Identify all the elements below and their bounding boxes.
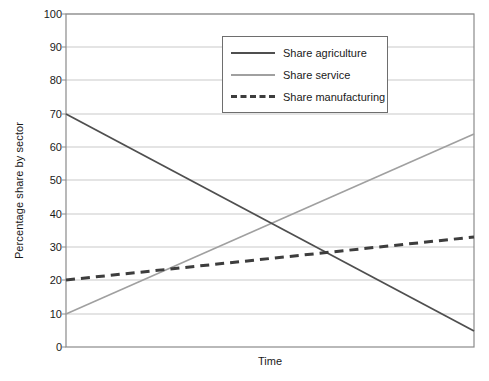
series-share-manufacturing (66, 237, 474, 280)
legend-item-service: Share service (231, 65, 350, 85)
legend-item-agriculture: Share agriculture (231, 43, 367, 63)
legend-label: Share agriculture (283, 47, 367, 59)
x-axis-label: Time (66, 355, 474, 367)
legend-line-icon-manufacturing (231, 91, 275, 103)
legend-label: Share service (283, 69, 350, 81)
legend-label: Share manufacturing (283, 91, 385, 103)
line-chart: Percentage share by sector 100 90 80 70 … (0, 0, 489, 381)
legend: Share agriculture Share service Share ma… (222, 36, 388, 113)
legend-line-icon-service (231, 69, 275, 81)
legend-line-icon-agriculture (231, 47, 275, 59)
series-share-service (66, 134, 474, 314)
legend-item-manufacturing: Share manufacturing (231, 87, 385, 107)
